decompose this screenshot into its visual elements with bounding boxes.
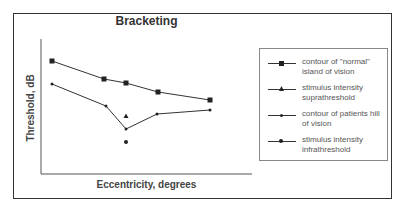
legend: contour of "normal"island of vision stim… xyxy=(259,48,388,161)
square-marker-icon xyxy=(279,61,284,66)
data-point xyxy=(125,128,128,131)
legend-item-infrathreshold: stimulus intensityinfrathreshold xyxy=(260,135,389,161)
data-point xyxy=(51,83,54,86)
dot-marker-icon xyxy=(280,114,283,117)
legend-label: suprathreshold xyxy=(302,93,386,103)
series-layer xyxy=(50,59,213,145)
data-point xyxy=(50,59,55,64)
data-point xyxy=(209,109,212,112)
data-point xyxy=(124,114,129,119)
data-point xyxy=(102,77,107,82)
legend-label: stimulus intensity xyxy=(302,135,386,145)
legend-item-suprathreshold: stimulus intensitysuprathreshold xyxy=(260,83,389,109)
legend-item-patient-contour: contour of patients hillof vision xyxy=(260,109,389,135)
data-point xyxy=(124,140,128,144)
legend-label: of vision xyxy=(302,119,386,129)
series-triangle xyxy=(124,114,129,119)
series-small-dot xyxy=(51,83,212,131)
data-point xyxy=(156,113,159,116)
series-square xyxy=(50,59,213,103)
data-point xyxy=(208,98,213,103)
data-point xyxy=(156,90,161,95)
data-point xyxy=(124,81,129,86)
circle-marker-icon xyxy=(279,139,283,143)
legend-label: contour of patients hill xyxy=(302,109,386,119)
triangle-marker-icon xyxy=(279,86,284,91)
legend-label: contour of "normal" xyxy=(302,57,386,67)
legend-label: infrathreshold xyxy=(302,145,386,155)
legend-label: island of vision xyxy=(302,67,386,77)
series-circle xyxy=(124,140,128,144)
legend-item-normal-contour: contour of "normal"island of vision xyxy=(260,57,389,83)
legend-label: stimulus intensity xyxy=(302,83,386,93)
data-point xyxy=(105,105,108,108)
